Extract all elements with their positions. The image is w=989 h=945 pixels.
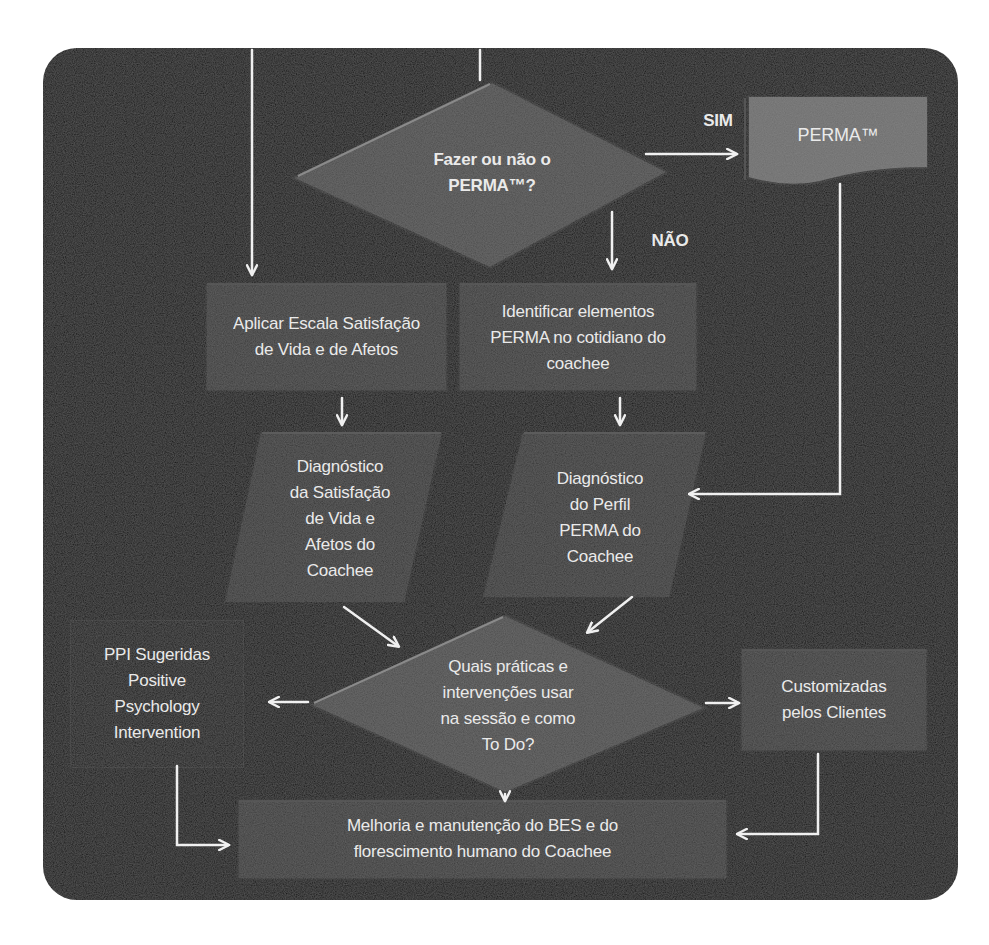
apply-scale-label: Aplicar Escala Satisfação de Vida e de A… xyxy=(205,292,448,382)
decision-practices-label: Quais práticas e intervenções usar na se… xyxy=(398,636,618,776)
improvement-label: Melhoria e manutenção do BES e do flores… xyxy=(237,803,728,875)
identify-elements-label: Identificar elementos PERMA no cotidiano… xyxy=(458,288,698,388)
ppi-suggested-label: PPI Sugeridas Positive Psychology Interv… xyxy=(70,628,244,760)
flowchart-canvas: Fazer ou não o PERMA™? SIM NÃO PERMA™ Ap… xyxy=(0,0,989,945)
edge-label-yes: SIM xyxy=(693,108,743,134)
edge-label-no: NÃO xyxy=(640,228,700,254)
decision-perma-line-1: Fazer ou não o xyxy=(433,147,550,173)
diagnosis-perma-label: Diagnóstico do Perfil PERMA do Coachee xyxy=(520,448,680,588)
decision-perma-line-2: PERMA™? xyxy=(448,173,535,199)
decision-perma-label: Fazer ou não o PERMA™? xyxy=(372,128,612,218)
diagnosis-satisfaction-label: Diagnóstico da Satisfação de Vida e Afet… xyxy=(255,438,425,600)
perma-box-label: PERMA™ xyxy=(748,110,928,160)
customized-label: Customizadas pelos Clientes xyxy=(740,655,928,745)
